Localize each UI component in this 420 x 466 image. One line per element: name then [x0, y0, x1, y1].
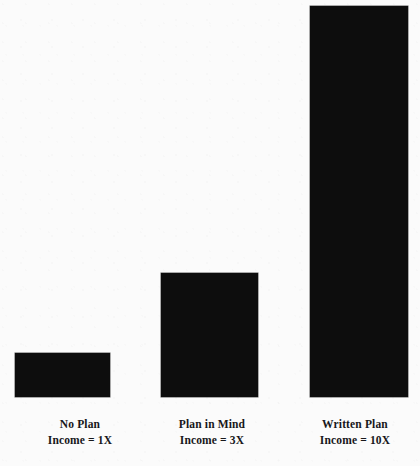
bar-written-plan[interactable]: [310, 6, 408, 397]
bar-label-written-plan-value: Income = 10X: [285, 433, 420, 449]
bar-label-plan-in-mind: Plan in Mind Income = 3X: [142, 417, 282, 448]
bar-label-plan-in-mind-value: Income = 3X: [142, 433, 282, 449]
bar-label-written-plan: Written Plan Income = 10X: [285, 417, 420, 448]
bar-label-plan-in-mind-category: Plan in Mind: [142, 417, 282, 433]
bar-chart: No Plan Income = 1X Plan in Mind Income …: [0, 0, 420, 466]
plot-area: No Plan Income = 1X Plan in Mind Income …: [0, 0, 420, 466]
bar-label-no-plan-category: No Plan: [10, 417, 150, 433]
bar-label-no-plan-value: Income = 1X: [10, 433, 150, 449]
bar-plan-in-mind[interactable]: [161, 273, 258, 397]
bar-no-plan[interactable]: [15, 353, 110, 397]
bar-label-no-plan: No Plan Income = 1X: [10, 417, 150, 448]
bar-label-written-plan-category: Written Plan: [285, 417, 420, 433]
